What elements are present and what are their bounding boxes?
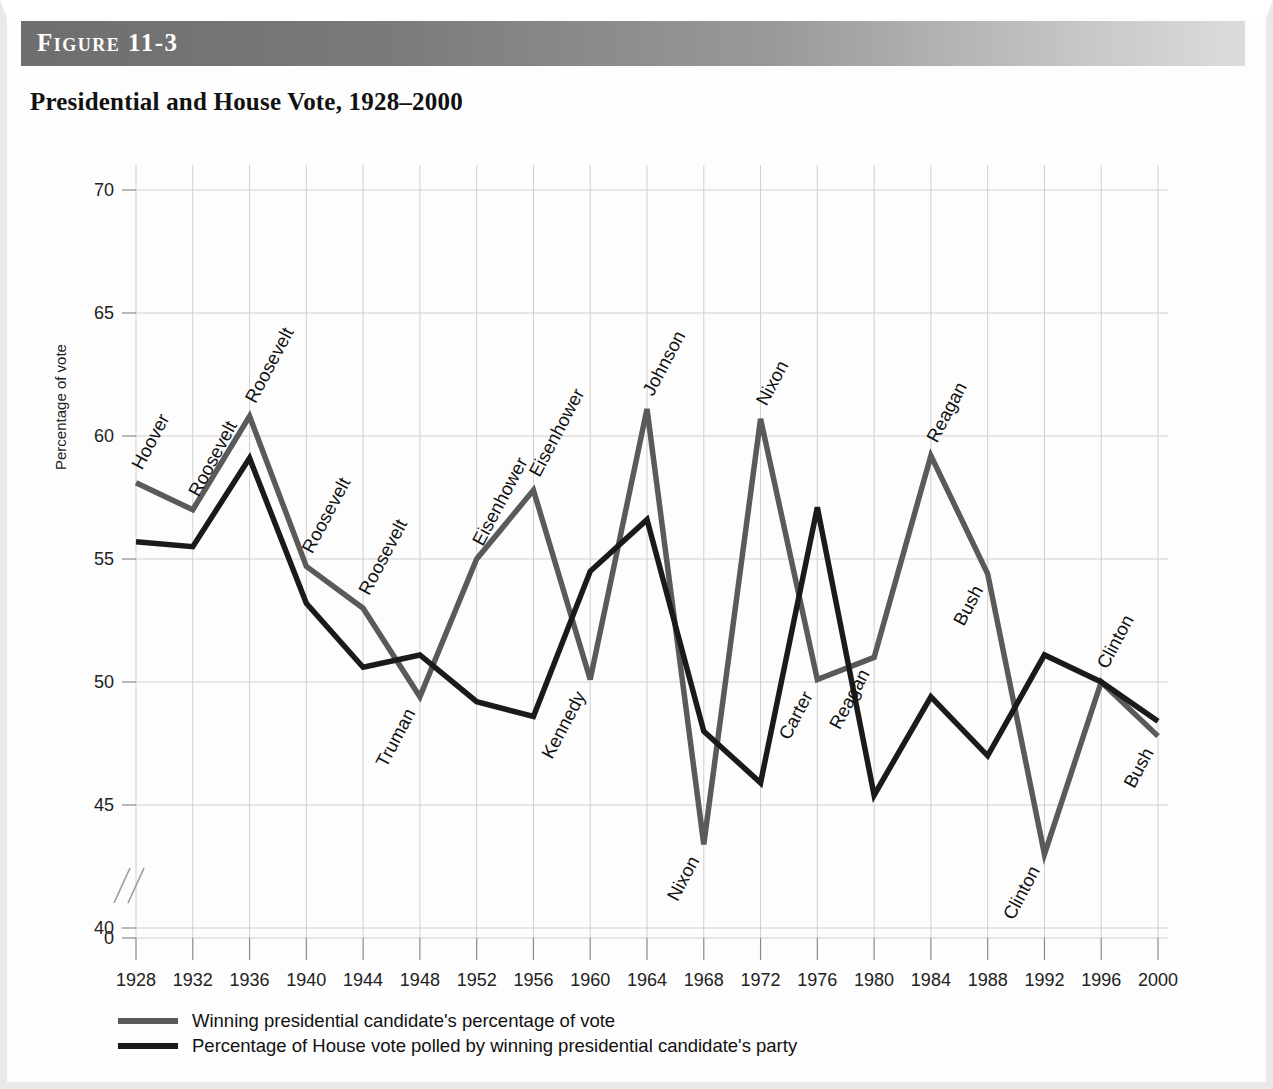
x-tick-label: 2000 (1138, 970, 1178, 990)
annotation-label: Bush (1119, 744, 1157, 791)
annotation-label: Kennedy (537, 687, 590, 762)
x-tick-label: 1928 (116, 970, 156, 990)
legend-label-presidential: Winning presidential candidate's percent… (192, 1010, 615, 1032)
figure-number-label: Figure 11-3 (37, 29, 178, 57)
chart-legend: Winning presidential candidate's percent… (118, 1008, 1018, 1058)
y-tick-label: 70 (94, 180, 114, 200)
annotation-label: Nixon (752, 357, 793, 409)
x-tick-label: 1944 (343, 970, 383, 990)
presidential-line-swatch (118, 1018, 178, 1024)
x-tick-label: 1964 (627, 970, 667, 990)
x-tick-label: 1988 (968, 970, 1008, 990)
x-tick-label: 1936 (230, 970, 270, 990)
x-tick-label: 1956 (513, 970, 553, 990)
x-tick-label: 1972 (741, 970, 781, 990)
annotation-label: Clinton (998, 862, 1044, 923)
x-tick-label: 1960 (570, 970, 610, 990)
x-tick-label: 1952 (457, 970, 497, 990)
y-tick-label: 45 (94, 795, 114, 815)
figure-header-bar: Figure 11-3 (21, 21, 1245, 66)
legend-label-house: Percentage of House vote polled by winni… (192, 1035, 797, 1057)
x-tick-label: 1992 (1024, 970, 1064, 990)
y-tick-label: 60 (94, 426, 114, 446)
annotation-label: Eisenhower (524, 385, 588, 480)
y-axis-break-icon (114, 868, 144, 903)
line-chart-svg: 404550556065700 192819321936194019441948… (0, 135, 1273, 1015)
x-tick-label: 1984 (911, 970, 951, 990)
figure-root: Figure 11-3 Presidential and House Vote,… (0, 0, 1273, 1089)
annotation-label: Nixon (663, 852, 704, 904)
figure-title: Presidential and House Vote, 1928–2000 (30, 88, 463, 116)
y-tick-label: 50 (94, 672, 114, 692)
house-line-swatch (118, 1043, 178, 1049)
annotation-label: Reagan (922, 378, 971, 445)
x-tick-label: 1940 (286, 970, 326, 990)
y-axis-ticks (122, 190, 136, 938)
legend-item-presidential: Winning presidential candidate's percent… (118, 1008, 1018, 1033)
x-tick-label: 1980 (854, 970, 894, 990)
legend-item-house: Percentage of House vote polled by winni… (118, 1033, 1018, 1058)
chart-plot-area: 404550556065700 192819321936194019441948… (0, 135, 1273, 1015)
annotation-label: Bush (949, 582, 987, 629)
axis-break-slash (114, 868, 130, 903)
x-tick-label: 1932 (173, 970, 213, 990)
vertical-gridlines (136, 165, 1158, 938)
annotation-label: Hoover (127, 410, 174, 473)
annotation-label: Truman (371, 705, 419, 771)
annotation-label: Clinton (1092, 611, 1138, 672)
y-tick-label: 65 (94, 303, 114, 323)
y-axis-tick-labels: 404550556065700 (94, 180, 114, 948)
x-axis-ticks (136, 938, 1158, 960)
x-tick-label: 1968 (684, 970, 724, 990)
x-tick-label: 1996 (1081, 970, 1121, 990)
x-tick-label: 1976 (797, 970, 837, 990)
y-tick-label-zero: 0 (104, 928, 114, 948)
x-axis-tick-labels: 1928193219361940194419481952195619601964… (116, 970, 1178, 990)
x-tick-label: 1948 (400, 970, 440, 990)
annotation-label: Johnson (638, 327, 689, 399)
data-point-annotations: HooverRooseveltRooseveltRooseveltRooseve… (127, 324, 1158, 923)
y-tick-label: 55 (94, 549, 114, 569)
